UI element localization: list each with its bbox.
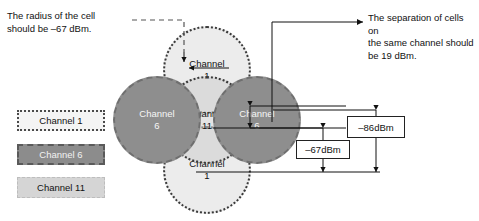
radius-leader-dashed <box>132 20 184 62</box>
center-separation-arrow <box>250 106 346 128</box>
measure-label-86dbm: –86dBm <box>347 116 405 138</box>
measure-value-86: –86dBm <box>358 122 393 133</box>
leader-and-dimension-lines <box>0 0 479 221</box>
measure-value-67: –67dBm <box>305 144 340 155</box>
separation-leader <box>272 22 363 122</box>
diagram-canvas: The radius of the cell should be –67 dBm… <box>0 0 479 221</box>
measure-label-67dbm: –67dBm <box>296 140 350 159</box>
